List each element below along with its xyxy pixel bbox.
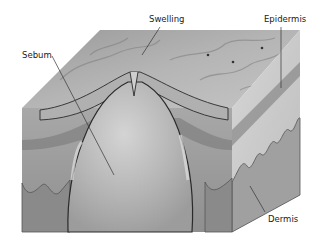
- skin-diagram: Swelling Epidermis Sebum Dermis: [0, 0, 319, 242]
- label-swelling: Swelling: [149, 15, 184, 24]
- pore-dot: [207, 54, 210, 57]
- label-dermis: Dermis: [268, 215, 298, 224]
- pore-dot: [232, 61, 235, 64]
- skin-block-illustration: [0, 0, 319, 242]
- pore-dot: [261, 47, 264, 50]
- label-sebum: Sebum: [22, 51, 52, 60]
- label-epidermis: Epidermis: [264, 15, 306, 24]
